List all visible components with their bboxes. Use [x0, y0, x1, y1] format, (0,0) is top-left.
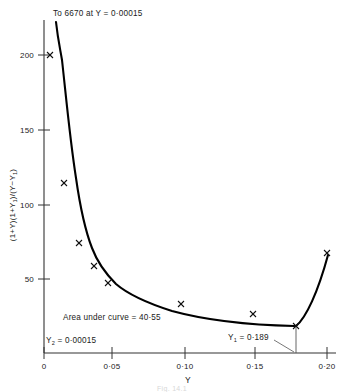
area-under-curve-annotation: Area under curve = 40·55 — [63, 313, 161, 322]
data-point-marker — [105, 280, 111, 286]
y-tick-label-150: 150 — [20, 126, 34, 135]
data-point-marker — [178, 301, 184, 307]
data-point-marker — [76, 240, 82, 246]
data-point-marker — [250, 311, 256, 317]
y-tick-label-200: 200 — [20, 51, 34, 60]
data-point-marker — [61, 180, 67, 186]
x-axis-label: Y — [185, 375, 191, 385]
data-curve-right-branch — [296, 255, 328, 326]
y1-leader-line — [274, 340, 294, 352]
x-tick-label-005: 0·05 — [104, 362, 121, 371]
y-axis-label-part3: ) — [8, 169, 17, 172]
axes-group — [38, 20, 336, 359]
x-tick-label-015: 0·15 — [247, 362, 264, 371]
figure-caption: Fig. 14.1 — [157, 385, 187, 392]
y-axis-label-part1: (1+Y)(1+Y — [8, 202, 17, 241]
y-tick-label-100: 100 — [20, 201, 34, 210]
data-point-markers — [47, 52, 330, 329]
y1-value: = 0·189 — [237, 333, 269, 342]
x-tick-label-010: 0·10 — [177, 362, 194, 371]
chart-canvas: 200 150 100 50 0 0·05 0·10 0·15 0·20 (1+… — [0, 0, 343, 392]
asymptote-annotation: To 6670 at Y = 0·00015 — [53, 9, 143, 18]
y2-annotation: Y2 = 0·00015 — [46, 336, 97, 346]
x-tick-label-020: 0·20 — [319, 362, 336, 371]
y-axis-label: (1+Y)(1+Y1)/(Y−Y1) — [8, 169, 18, 241]
y-tick-label-50: 50 — [25, 275, 35, 284]
y-axis-label-part2: )/(Y−Y — [8, 175, 17, 200]
data-point-marker — [91, 263, 97, 269]
figure-container: 200 150 100 50 0 0·05 0·10 0·15 0·20 (1+… — [0, 0, 343, 392]
y1-annotation: Y1 = 0·189 — [228, 333, 269, 343]
data-curve — [56, 22, 296, 326]
x-tick-label-0: 0 — [42, 362, 47, 371]
y2-value: = 0·00015 — [55, 336, 97, 345]
